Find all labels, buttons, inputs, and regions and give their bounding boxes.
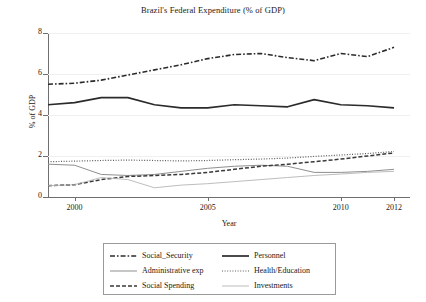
dotted-swatch xyxy=(222,267,249,275)
legend-label: Personnel xyxy=(254,251,286,260)
solid-thick-swatch xyxy=(222,252,249,260)
dashed-swatch xyxy=(110,282,137,290)
y-tick-label: 6 xyxy=(28,68,42,77)
legend-item-administrative-exp[interactable]: Administrative exp xyxy=(110,266,222,275)
y-tick-label: 8 xyxy=(28,27,42,36)
x-tick-label: 2012 xyxy=(386,203,402,212)
legend-label: Administrative exp xyxy=(142,266,204,275)
series-line-social-spending xyxy=(48,153,394,186)
y-tick xyxy=(43,197,48,198)
legend-label: Social Spending xyxy=(142,281,194,290)
series-line-social-security xyxy=(48,47,394,84)
legend: Social_SecurityPersonnelAdministrative e… xyxy=(103,243,336,295)
series-line-health-education xyxy=(48,151,394,161)
legend-item-investments[interactable]: Investments xyxy=(222,281,334,290)
dash-dot-swatch xyxy=(110,252,137,260)
legend-item-social-security[interactable]: Social_Security xyxy=(110,251,222,260)
chart-title: Brazil's Federal Expenditure (% of GDP) xyxy=(0,5,426,15)
legend-label: Investments xyxy=(254,281,293,290)
y-tick-label: 2 xyxy=(28,150,42,159)
y-tick-label: 0 xyxy=(28,191,42,200)
solid-gray-swatch xyxy=(110,267,137,275)
x-tick-label: 2010 xyxy=(333,203,349,212)
x-tick-label: 2000 xyxy=(67,203,83,212)
x-tick-label: 2005 xyxy=(200,203,216,212)
legend-item-social-spending[interactable]: Social Spending xyxy=(110,281,222,290)
series-line-personnel xyxy=(48,98,394,108)
x-axis-title: Year xyxy=(48,219,410,228)
x-tick xyxy=(75,197,76,201)
legend-item-health-education[interactable]: Health/Education xyxy=(222,266,334,275)
y-axis-title: % of GDP xyxy=(28,95,37,128)
x-tick xyxy=(208,197,209,201)
x-tick xyxy=(394,197,395,201)
chart-container: Brazil's Federal Expenditure (% of GDP) … xyxy=(0,0,426,302)
legend-label: Health/Education xyxy=(254,266,310,275)
legend-item-personnel[interactable]: Personnel xyxy=(222,251,334,260)
x-tick xyxy=(341,197,342,201)
legend-label: Social_Security xyxy=(142,251,193,260)
solid-light-swatch xyxy=(222,282,249,290)
series-lines xyxy=(48,33,410,197)
plot-area: 02468 2000200520102012 % of GDP Year xyxy=(48,33,410,197)
